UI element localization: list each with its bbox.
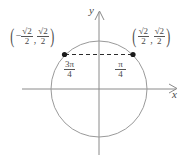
close-paren: ) xyxy=(50,26,54,46)
fraction-numerator: 3π xyxy=(64,60,75,69)
x-axis-label: x xyxy=(172,89,177,100)
fraction-denominator: 2 xyxy=(24,37,31,46)
angle-label-pi-4: π 4 xyxy=(115,60,126,79)
fraction-denominator: 2 xyxy=(140,37,147,46)
angle-label-3pi-4: 3π 4 xyxy=(64,60,75,79)
fraction-denominator: 4 xyxy=(117,70,124,79)
fraction-y-3pi-4: √2 2 xyxy=(37,27,48,46)
fraction-denominator: 2 xyxy=(40,37,47,46)
unit-circle-figure: ( − √2 2 , √2 2 ) ( √2 2 , √2 2 ) xyxy=(0,0,192,167)
coordinate-label-pi-4: ( √2 2 , √2 2 ) xyxy=(131,26,172,46)
fraction-y-pi-4: √2 2 xyxy=(154,27,165,46)
fraction-numerator: √2 xyxy=(37,27,48,36)
fraction-angle-3pi-4: 3π 4 xyxy=(64,60,75,79)
open-paren: ( xyxy=(132,26,136,46)
fraction-denominator: 4 xyxy=(66,70,73,79)
fraction-angle-pi-4: π 4 xyxy=(115,60,126,79)
point-marker-pi-4 xyxy=(130,52,135,57)
fraction-denominator: 2 xyxy=(156,37,163,46)
fraction-numerator: √2 xyxy=(21,27,32,36)
fraction-x-3pi-4: √2 2 xyxy=(21,27,32,46)
point-marker-3pi-4 xyxy=(62,52,67,57)
fraction-numerator: π xyxy=(117,60,124,69)
fraction-x-pi-4: √2 2 xyxy=(138,27,149,46)
y-axis-label: y xyxy=(89,5,94,16)
coordinate-label-3pi-4: ( − √2 2 , √2 2 ) xyxy=(9,26,55,46)
close-paren: ) xyxy=(166,26,170,46)
fraction-numerator: √2 xyxy=(138,27,149,36)
open-paren: ( xyxy=(10,26,14,46)
fraction-numerator: √2 xyxy=(154,27,165,36)
